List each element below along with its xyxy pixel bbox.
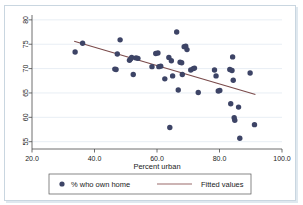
data-point — [158, 63, 163, 68]
graph-frame: 556065707580 20.040.060.080.0100.0 Perce… — [4, 5, 296, 201]
legend-label-scatter: % who own home — [71, 180, 130, 189]
x-tick-label: 40.0 — [88, 155, 102, 162]
data-point — [229, 68, 234, 73]
y-tick-label: 55 — [23, 138, 30, 146]
y-tick-label: 65 — [23, 89, 30, 97]
data-point — [236, 104, 241, 109]
data-point — [170, 73, 175, 78]
data-point — [184, 47, 189, 52]
data-point — [217, 88, 222, 93]
scatter-plot: 556065707580 20.040.060.080.0100.0 Perce… — [5, 6, 295, 200]
legend-label-fit: Fitted values — [201, 180, 244, 189]
data-point — [232, 118, 237, 123]
y-tick-label: 75 — [23, 40, 30, 48]
data-point — [176, 87, 181, 92]
data-point — [237, 136, 242, 141]
data-point — [115, 51, 120, 56]
legend: % who own home Fitted values — [5, 172, 295, 198]
data-point — [180, 72, 185, 77]
data-point — [72, 49, 77, 54]
y-tick-label: 60 — [23, 113, 30, 121]
data-point — [196, 90, 201, 95]
data-point — [230, 54, 235, 59]
data-point — [247, 70, 252, 75]
x-tick-label: 80.0 — [213, 155, 227, 162]
data-point — [80, 41, 85, 46]
y-tick-group: 556065707580 — [23, 16, 33, 146]
data-points-group — [72, 29, 257, 141]
x-tick-label: 100.0 — [273, 155, 291, 162]
data-point — [162, 76, 167, 81]
data-point — [252, 122, 257, 127]
data-point — [149, 64, 154, 69]
data-point — [231, 78, 236, 83]
axes-group — [32, 15, 282, 149]
data-point — [131, 72, 136, 77]
y-tick-label: 80 — [23, 16, 30, 24]
x-axis-title: Percent urban — [133, 162, 180, 171]
data-point — [113, 67, 118, 72]
x-tick-group: 20.040.060.080.0100.0 — [25, 149, 291, 162]
data-point — [117, 37, 122, 42]
data-point — [212, 67, 217, 72]
chart-screenshot: 556065707580 20.040.060.080.0100.0 Perce… — [0, 0, 303, 205]
data-point — [135, 56, 140, 61]
x-tick-label: 60.0 — [150, 155, 164, 162]
gridlines-group — [32, 20, 282, 142]
data-point — [174, 29, 179, 34]
data-point — [167, 125, 172, 130]
data-point — [179, 60, 184, 65]
data-point — [169, 58, 174, 63]
data-point — [213, 73, 218, 78]
x-tick-label: 20.0 — [25, 155, 39, 162]
data-point — [155, 50, 160, 55]
data-point — [228, 101, 233, 106]
legend-marker-icon — [59, 181, 64, 186]
data-point — [192, 65, 197, 70]
y-tick-label: 70 — [23, 65, 30, 73]
